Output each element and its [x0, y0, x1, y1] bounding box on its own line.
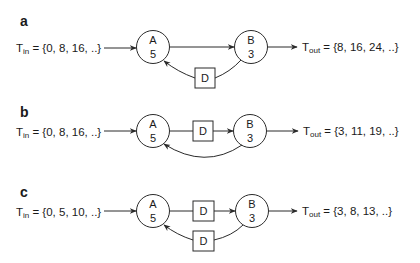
output-subscript: out — [309, 46, 321, 55]
output-sequence: Tout = {8, 16, 24, ..} — [302, 41, 399, 55]
feedback-edge-d-to-a — [164, 61, 195, 78]
input-symbol: T — [16, 42, 23, 54]
feedback-delay-box: D — [193, 231, 214, 251]
forward-delay-box: D — [193, 121, 213, 141]
node-a-name: A — [149, 34, 157, 46]
node-b-name: B — [248, 198, 255, 210]
output-values: = {3, 8, 13, ..} — [320, 205, 392, 217]
input-symbol: T — [16, 126, 23, 138]
feedback-edge-d-to-a — [164, 225, 193, 240]
panel-b: b Tin = {0, 8, 16, ..} A 5 D B 3 Tout = … — [16, 104, 399, 157]
output-subscript: out — [310, 130, 322, 139]
forward-delay-box: D — [193, 201, 214, 221]
node-b-value: 3 — [248, 48, 254, 60]
feedback-edge-b-to-d — [215, 60, 241, 78]
panel-label: b — [20, 104, 29, 120]
output-values: = {8, 16, 24, ..} — [320, 41, 398, 53]
panel-label: a — [20, 13, 28, 29]
node-a-value: 5 — [150, 48, 156, 60]
feedback-edge-b-to-a — [164, 144, 242, 157]
feedback-delay-box: D — [195, 68, 215, 88]
input-sequence: Tin = {0, 5, 10, ..} — [16, 206, 101, 220]
dataflow-diagram: a Tin = {0, 8, 16, ..} A 5 B 3 D Tout = … — [0, 0, 420, 263]
input-sequence: Tin = {0, 8, 16, ..} — [16, 42, 101, 56]
node-b: B 3 — [236, 195, 269, 228]
node-a: A 5 — [137, 195, 170, 228]
delay-label: D — [201, 72, 209, 84]
output-sequence: Tout = {3, 8, 13, ..} — [302, 205, 392, 219]
input-values: = {0, 8, 16, ..} — [29, 126, 101, 138]
feedback-edge-b-to-d — [214, 225, 243, 240]
delay-label: D — [200, 205, 208, 217]
output-values: = {3, 11, 19, ..} — [321, 125, 399, 137]
node-b-name: B — [247, 34, 254, 46]
panel-label: c — [20, 184, 28, 200]
node-b-name: B — [246, 118, 253, 130]
delay-label: D — [200, 235, 208, 247]
node-a-value: 5 — [150, 132, 156, 144]
node-b-value: 3 — [247, 132, 253, 144]
panel-a: a Tin = {0, 8, 16, ..} A 5 B 3 D Tout = … — [16, 13, 399, 88]
node-a-value: 5 — [150, 212, 156, 224]
node-b: B 3 — [235, 31, 268, 64]
delay-label: D — [199, 125, 207, 137]
output-symbol: T — [302, 41, 309, 53]
input-values: = {0, 5, 10, ..} — [29, 206, 101, 218]
output-symbol: T — [302, 205, 309, 217]
output-symbol: T — [303, 125, 310, 137]
node-a-name: A — [149, 198, 157, 210]
node-a: A 5 — [137, 31, 170, 64]
input-sequence: Tin = {0, 8, 16, ..} — [16, 126, 101, 140]
output-subscript: out — [309, 210, 321, 219]
input-symbol: T — [16, 206, 23, 218]
panel-c: c Tin = {0, 5, 10, ..} A 5 D B 3 D Tout … — [16, 184, 392, 251]
node-b-value: 3 — [249, 212, 255, 224]
node-a-name: A — [149, 118, 157, 130]
input-values: = {0, 8, 16, ..} — [29, 42, 101, 54]
node-b: B 3 — [234, 115, 267, 148]
node-a: A 5 — [137, 115, 170, 148]
output-sequence: Tout = {3, 11, 19, ..} — [303, 125, 399, 139]
